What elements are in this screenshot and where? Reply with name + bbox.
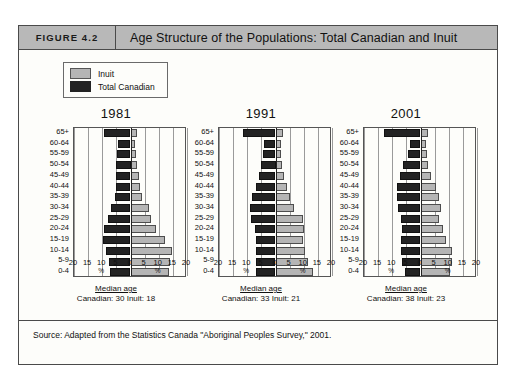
pyramid-row [219, 192, 330, 203]
age-group-label: 65+ [331, 127, 362, 138]
bar-total-canadian [256, 183, 276, 191]
bar-inuit [276, 236, 303, 244]
bar-total-canadian [252, 193, 275, 201]
x-tick-label: 10 [387, 258, 395, 267]
plot-area: 65+60-6455-5950-5445-4940-4435-3930-3425… [331, 127, 481, 277]
zero-axis-line [421, 128, 422, 276]
bar-inuit [276, 204, 295, 212]
bar-total-canadian [256, 236, 275, 244]
pyramid-panel-1991: 199165+60-6455-5950-5445-4940-4435-3930-… [186, 106, 336, 336]
pyramid-row [74, 128, 185, 139]
pyramid-row [74, 192, 185, 203]
bar-total-canadian [104, 129, 131, 137]
pyramid-row [219, 203, 330, 214]
bar-total-canadian [243, 129, 276, 137]
bar-total-canadian [410, 140, 421, 148]
x-tick-label: 5 [258, 258, 262, 267]
x-tick-label: 20 [214, 258, 222, 267]
pyramid-panel-1981: 198165+60-6455-5950-5445-4940-4435-3930-… [41, 106, 191, 336]
bar-inuit [276, 247, 306, 255]
pyramid-row [74, 203, 185, 214]
bar-total-canadian [106, 247, 131, 255]
age-axis: 65+60-6455-5950-5445-4940-4435-3930-3425… [331, 127, 362, 277]
bar-total-canadian [398, 204, 421, 212]
x-tick-label: 10 [444, 258, 452, 267]
percent-labels: %% [218, 267, 331, 277]
x-tick-label: 15 [313, 258, 321, 267]
pyramid-row [364, 224, 475, 235]
pyramid-plot [73, 127, 186, 277]
bar-inuit [131, 236, 165, 244]
bar-total-canadian [103, 236, 131, 244]
bar-total-canadian [401, 247, 421, 255]
median-age-caption: Median ageCanadian: 33 Inuit: 21 [186, 284, 336, 303]
age-group-label: 60-64 [331, 138, 362, 149]
bar-total-canadian [263, 150, 275, 158]
percent-symbol: % [300, 267, 306, 274]
pyramid-row [74, 139, 185, 150]
median-age-values: Canadian: 38 Inuit: 23 [331, 294, 481, 303]
age-group-label: 5-9 [186, 255, 217, 266]
bar-inuit [276, 172, 284, 180]
bar-inuit [131, 129, 138, 137]
bar-total-canadian [264, 140, 276, 148]
legend-item-inuit: Inuit [70, 67, 155, 80]
age-group-label: 45-49 [186, 170, 217, 181]
age-group-label: 5-9 [41, 255, 72, 266]
bar-total-canadian [111, 204, 130, 212]
bar-inuit [421, 215, 440, 223]
pyramid-row [219, 139, 330, 150]
age-group-label: 10-14 [41, 245, 72, 256]
median-age-title: Median age [41, 284, 191, 293]
age-group-label: 35-39 [331, 191, 362, 202]
pyramid-row [364, 214, 475, 225]
bar-inuit [276, 215, 303, 223]
bar-inuit [421, 193, 439, 201]
bar-total-canadian [384, 129, 420, 137]
pyramid-row [74, 160, 185, 171]
pyramid-row [219, 246, 330, 257]
pyramid-row [364, 246, 475, 257]
age-group-label: 45-49 [331, 170, 362, 181]
age-group-label: 20-24 [331, 223, 362, 234]
bar-total-canadian [403, 161, 421, 169]
age-axis: 65+60-6455-5950-5445-4940-4435-3930-3425… [41, 127, 72, 277]
percent-symbol: % [243, 267, 249, 274]
age-group-label: 20-24 [186, 223, 217, 234]
bar-total-canadian [116, 161, 130, 169]
x-tick-label: 15 [83, 258, 91, 267]
x-tick-label: 10 [242, 258, 250, 267]
x-tick-label: 20 [359, 258, 367, 267]
legend-item-canadian: Total Canadian [70, 80, 155, 93]
age-group-label: 55-59 [186, 148, 217, 159]
bar-total-canadian [116, 183, 131, 191]
bar-inuit [131, 172, 139, 180]
pyramid-row [219, 224, 330, 235]
bar-inuit [276, 129, 283, 137]
x-tick-label: 10 [299, 258, 307, 267]
age-group-label: 10-14 [331, 245, 362, 256]
panel-year-label: 1981 [41, 106, 191, 121]
figure-number: FIGURE 4.2 [19, 32, 115, 43]
legend-label: Total Canadian [98, 82, 155, 92]
age-group-label: 50-54 [41, 159, 72, 170]
median-age-caption: Median ageCanadian: 38 Inuit: 23 [331, 284, 481, 303]
bar-inuit [131, 215, 151, 223]
pyramid-row [74, 182, 185, 193]
age-group-label: 30-34 [186, 202, 217, 213]
x-tick-label: 15 [458, 258, 466, 267]
pyramid-row [364, 149, 475, 160]
figure-title: Age Structure of the Populations: Total … [116, 31, 457, 45]
pyramid-row [364, 182, 475, 193]
plot-area: 65+60-6455-5950-5445-4940-4435-3930-3425… [41, 127, 191, 277]
percent-symbol: % [155, 267, 161, 274]
bar-inuit [131, 183, 140, 191]
bar-total-canadian [104, 225, 131, 233]
legend-swatch-inuit-icon [70, 68, 91, 79]
pyramid-row [74, 224, 185, 235]
pyramid-row [74, 235, 185, 246]
zero-axis-line [276, 128, 277, 276]
bar-inuit [131, 247, 173, 255]
bar-inuit [421, 247, 453, 255]
median-age-title: Median age [331, 284, 481, 293]
